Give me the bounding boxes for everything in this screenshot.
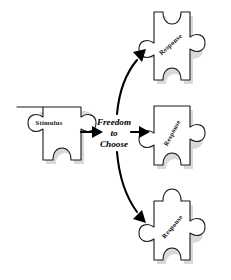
- puzzle-diagram: Stimulus Response Response Response: [0, 0, 231, 280]
- arrow-center-to-bottom: [117, 152, 146, 223]
- center-label-line1: Freedom: [96, 117, 131, 127]
- center-label-line2: to: [110, 128, 118, 138]
- stimulus-label: Stimulus: [36, 119, 63, 126]
- center-label-group: Freedom to Choose: [96, 117, 131, 149]
- arrow-center-to-top: [117, 49, 146, 114]
- center-label-line3: Choose: [100, 139, 128, 149]
- arrow-center-to-top-line: [117, 60, 137, 114]
- diagram-canvas: Stimulus Response Response Response: [0, 0, 231, 280]
- arrow-center-to-bottom-head: [133, 210, 146, 223]
- arrow-stimulus-to-center-head: [92, 126, 103, 138]
- arrow-center-to-bottom-line: [117, 152, 137, 212]
